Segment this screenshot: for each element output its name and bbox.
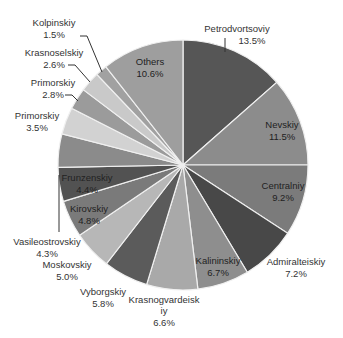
slice-percent: 1.5% (43, 29, 65, 40)
slice-label: Others (136, 56, 165, 67)
slice-percent: 9.2% (272, 192, 294, 203)
slice-percent: 4.8% (78, 215, 100, 226)
slice-label: Vyborgskiy (80, 286, 126, 297)
slice-label: Kirovskiy (70, 203, 108, 214)
slice-percent: 13.5% (239, 35, 266, 46)
slice-percent: 2.6% (43, 59, 65, 70)
slice-percent: 4.3% (36, 248, 58, 259)
slice-percent: 3.5% (26, 122, 48, 133)
slice-label: Moskovskiy (42, 259, 91, 270)
slice-label: Primorskiy (15, 110, 59, 121)
slice-label: Nevskiy (265, 119, 298, 130)
slice-percent: 4.4% (76, 184, 98, 195)
slice-percent: 7.2% (285, 268, 307, 279)
slice-label: Vasileostrovskiy (13, 236, 80, 247)
slice-percent: 6.7% (207, 267, 229, 278)
slice-percent: 5.0% (56, 271, 78, 282)
slice-label: Centralniy (262, 180, 305, 191)
slice-percent: 2.8% (42, 89, 64, 100)
slice-label: Krasnoselskiy (25, 47, 84, 58)
slice-percent: 6.6% (153, 317, 175, 328)
pie-slices (58, 40, 308, 290)
slice-percent: 10.6% (137, 68, 164, 79)
slice-label: Krasnogvardeisk (129, 294, 200, 305)
slice-label: Admiralteiskiy (267, 256, 326, 267)
slice-label: Frunzenskiy (61, 172, 112, 183)
slice-label: iy (161, 305, 168, 316)
slice-percent: 11.5% (269, 131, 295, 142)
slice-label: Primorskiy (31, 77, 75, 88)
slice-percent: 5.8% (92, 298, 114, 309)
slice-label: Kolpinskiy (33, 17, 76, 28)
slice-label: Kalininskiy (196, 255, 241, 266)
slice-label: Petrodvortsoviy (204, 23, 269, 34)
